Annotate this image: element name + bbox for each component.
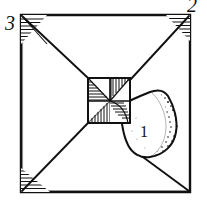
label-2: 2: [187, 0, 197, 16]
diagonal-bottom-right: [142, 156, 190, 191]
central-hatched-square: [88, 78, 130, 123]
label-1: 1: [140, 123, 148, 140]
diagonal-bottom-left: [22, 123, 88, 191]
diagonal-top-right: [131, 16, 189, 79]
technical-diagram: 3 2 1: [0, 0, 207, 210]
figure-container: 3 2 1: [0, 0, 207, 210]
diagonal-top-left: [22, 16, 88, 78]
label-3: 3: [4, 12, 15, 34]
